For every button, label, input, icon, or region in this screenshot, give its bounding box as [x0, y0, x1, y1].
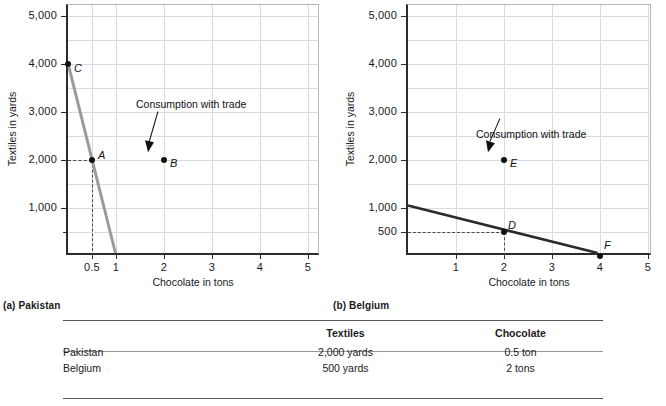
x-axis-tick-label: 1: [453, 261, 459, 273]
table-header-row: Textiles Chocolate: [63, 320, 603, 344]
y-axis-tick-1000: 1,000: [61, 208, 68, 209]
panel-caption-belgium: (b)Belgium: [333, 300, 389, 311]
chart-belgium-plot-area: 5,000 4,000 3,000 2,000 1,000 500: [406, 4, 651, 255]
x-axis-tick-label: 3: [209, 261, 215, 273]
y-axis-tick-label: 2,000: [28, 153, 57, 165]
y-axis-tick-3000: 3,000: [61, 112, 68, 113]
panel-pakistan: 5,000 4,000 3,000 2,000 1,000 0.5 1: [0, 0, 330, 315]
table-row: Belgium 500 yards 2 tons: [63, 360, 603, 376]
x-axis-tick-3: [552, 253, 553, 259]
panel-belgium: 5,000 4,000 3,000 2,000 1,000 500: [330, 0, 660, 315]
y-axis-tick-label: 1,000: [368, 201, 397, 213]
data-point-label-D: D: [508, 219, 516, 231]
x-axis-tick-label: 5: [645, 261, 651, 273]
table-cell-textiles: 2,000 yards: [253, 344, 438, 360]
x-axis-tick-label: 1: [113, 261, 119, 273]
x-axis-tick-5: [308, 253, 309, 259]
annotation-arrow-icon: [408, 5, 650, 253]
x-axis-tick-4: [260, 253, 261, 259]
x-axis-tick-5: [648, 253, 649, 259]
x-axis-tick-1: [116, 253, 117, 259]
x-axis-tick-label: 0.5: [84, 261, 100, 273]
panel-name: Belgium: [349, 300, 389, 311]
x-axis-tick-1: [456, 253, 457, 259]
data-point-label-C: C: [74, 62, 82, 74]
y-axis-tick-label: 3,000: [28, 105, 57, 117]
data-point-label-B: B: [170, 157, 177, 169]
y-axis-tick-label: 4,000: [28, 57, 57, 69]
y-axis-tick-label: 3,000: [368, 105, 397, 117]
y-axis-tick-label: 1,000: [28, 201, 57, 213]
x-axis-title: Chocolate in tons: [488, 276, 569, 288]
table-rule-bottom: [63, 398, 603, 399]
table-cell-textiles: 500 yards: [253, 360, 438, 376]
y-axis-title: Textiles in yards: [344, 92, 356, 167]
y-axis-tick-2000: 2,000: [61, 160, 68, 161]
data-point-label-E: E: [510, 157, 517, 169]
y-axis-tick-label: 5,000: [28, 9, 57, 21]
data-point-C: [65, 61, 71, 67]
y-axis-tick-2000: 2,000: [401, 160, 408, 161]
panel-caption-pakistan: (a)Pakistan: [3, 300, 60, 311]
table-row: Pakistan 2,000 yards 0.5 ton: [63, 344, 603, 360]
table-header-textiles: Textiles: [253, 320, 438, 344]
table-cell-chocolate: 0.5 ton: [438, 344, 603, 360]
x-axis-title: Chocolate in tons: [152, 276, 233, 288]
x-axis-tick-label: 4: [257, 261, 263, 273]
y-axis-tick-5000: 5,000: [401, 16, 408, 17]
panel-name: Pakistan: [19, 300, 61, 311]
data-point-F: [597, 253, 603, 259]
panel-letter: (a): [3, 300, 16, 311]
x-axis-tick-label: 5: [305, 261, 311, 273]
x-axis-tick-3: [212, 253, 213, 259]
x-axis-tick-label: 3: [549, 261, 555, 273]
y-axis-tick-1000: 1,000: [401, 208, 408, 209]
x-axis-tick-label: 2: [501, 261, 507, 273]
y-axis-title: Textiles in yards: [6, 92, 18, 167]
x-axis-tick-label: 2: [161, 261, 167, 273]
y-axis-tick-label: 500: [378, 225, 397, 237]
consumption-summary-table: Textiles Chocolate Pakistan 2,000 yards …: [63, 320, 603, 376]
data-point-B: [161, 157, 167, 163]
panel-letter: (b): [333, 300, 346, 311]
table-header-blank: [63, 320, 253, 344]
data-point-label-A: A: [98, 149, 105, 161]
x-axis-tick-2: [164, 253, 165, 259]
y-axis-tick-3000: 3,000: [401, 112, 408, 113]
table-cell-chocolate: 2 tons: [438, 360, 603, 376]
table-header-chocolate: Chocolate: [438, 320, 603, 344]
data-point-A: [89, 157, 95, 163]
data-point-label-F: F: [604, 239, 611, 251]
y-axis-tick-label: 2,000: [368, 153, 397, 165]
y-axis-tick-4000: 4,000: [401, 64, 408, 65]
table-cell-country: Pakistan: [63, 344, 253, 360]
x-axis-tick-label: 4: [597, 261, 603, 273]
data-point-E: [501, 157, 507, 163]
y-axis-tick-label: 5,000: [368, 9, 397, 21]
y-axis-tick-label: 4,000: [368, 57, 397, 69]
chart-pakistan-plot-area: 5,000 4,000 3,000 2,000 1,000 0.5 1: [66, 4, 319, 255]
table-cell-country: Belgium: [63, 360, 253, 376]
y-axis-tick-5000: 5,000: [61, 16, 68, 17]
y-axis-tick-500: 500: [401, 232, 408, 233]
trade-ppf-figure: 5,000 4,000 3,000 2,000 1,000 0.5 1: [0, 0, 666, 406]
data-point-D: [501, 229, 507, 235]
annotation-arrow-icon: [68, 5, 318, 253]
